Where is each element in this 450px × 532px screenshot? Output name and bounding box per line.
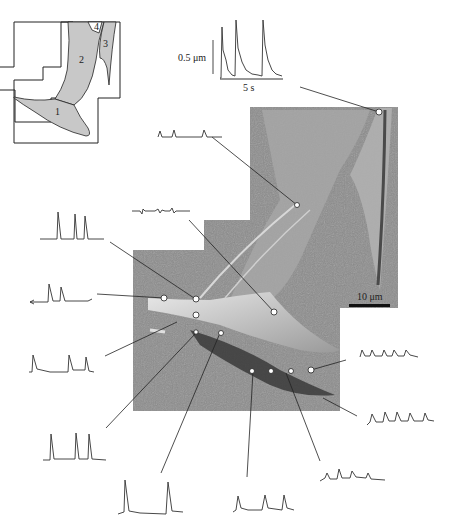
- inset-time-scale-label: 5 s: [243, 82, 254, 93]
- leader-lines-and-traces: [0, 0, 450, 532]
- inset-amplitude-scale-label: 0.5 μm: [178, 52, 206, 63]
